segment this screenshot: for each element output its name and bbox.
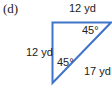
top-right-angle-label: 45° bbox=[82, 25, 99, 36]
bottom-angle-label: 45° bbox=[57, 57, 74, 68]
left-side-label: 12 yd bbox=[26, 47, 53, 58]
figure: (d) 12 yd 45° 12 yd 45° 17 yd bbox=[0, 0, 112, 92]
top-side-label: 12 yd bbox=[69, 3, 96, 14]
hypotenuse-label: 17 yd bbox=[84, 66, 111, 77]
